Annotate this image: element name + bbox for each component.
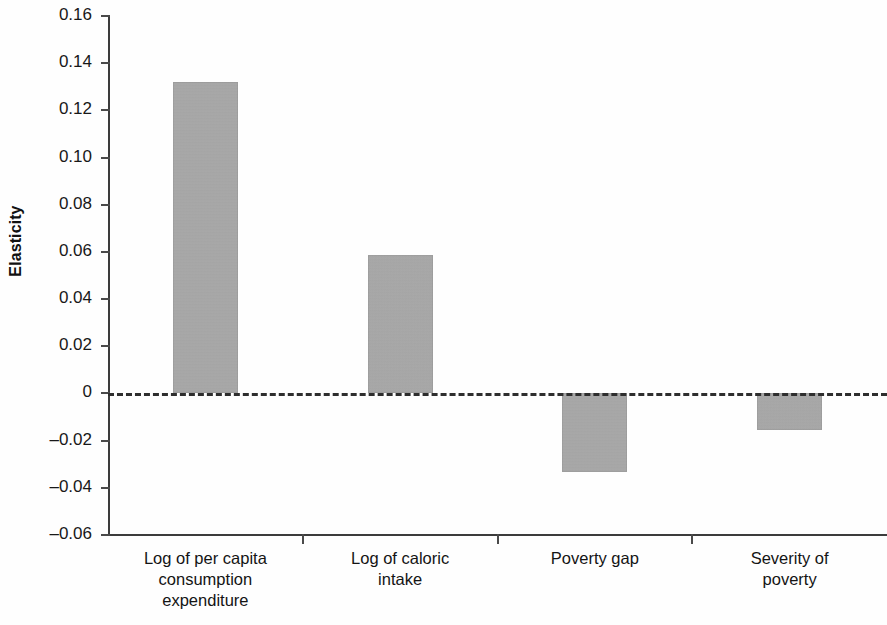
y-axis-tick-label: 0.14 bbox=[0, 52, 92, 72]
y-axis-tick-label: 0.08 bbox=[0, 194, 92, 214]
x-axis-tick bbox=[497, 534, 499, 544]
y-axis-tick-label: 0.04 bbox=[0, 288, 92, 308]
y-axis-tick-label: 0.10 bbox=[0, 147, 92, 167]
bar bbox=[368, 255, 433, 393]
y-axis-tick bbox=[101, 345, 110, 347]
y-axis-tick-label: –0.06 bbox=[0, 524, 92, 544]
category-label-line: intake bbox=[303, 569, 498, 590]
y-axis-tick-label: –0.02 bbox=[0, 430, 92, 450]
x-axis-category-label: Log of caloricintake bbox=[303, 548, 498, 590]
x-axis-tick bbox=[302, 534, 304, 544]
y-axis-tick bbox=[101, 109, 110, 111]
y-axis-tick bbox=[101, 251, 110, 253]
bar-chart-figure: Elasticity 0.160.140.120.100.080.060.040… bbox=[0, 0, 887, 625]
y-axis-line bbox=[108, 16, 110, 535]
category-label-line: Poverty gap bbox=[498, 548, 693, 569]
category-label-line: consumption bbox=[108, 569, 303, 590]
y-axis-tick-label: 0 bbox=[0, 382, 92, 402]
y-axis-tick-label: 0.02 bbox=[0, 335, 92, 355]
plot-area: 0.160.140.120.100.080.060.040.020–0.02–0… bbox=[108, 16, 887, 535]
x-axis-category-label: Poverty gap bbox=[498, 548, 693, 569]
y-axis-tick-label: 0.12 bbox=[0, 99, 92, 119]
y-axis-tick-label: –0.04 bbox=[0, 477, 92, 497]
y-axis-tick bbox=[101, 534, 110, 536]
zero-reference-line bbox=[108, 393, 887, 396]
bar bbox=[173, 82, 238, 393]
bar bbox=[757, 393, 822, 430]
y-axis-tick bbox=[101, 157, 110, 159]
category-label-line: poverty bbox=[692, 569, 887, 590]
bar bbox=[562, 393, 627, 472]
y-axis-tick bbox=[101, 62, 110, 64]
category-label-line: expenditure bbox=[108, 590, 303, 611]
category-label-line: Log of per capita bbox=[108, 548, 303, 569]
y-axis-tick bbox=[101, 15, 110, 17]
y-axis-tick-label: 0.06 bbox=[0, 241, 92, 261]
y-axis-tick bbox=[101, 487, 110, 489]
y-axis-tick bbox=[101, 204, 110, 206]
category-label-line: Severity of bbox=[692, 548, 887, 569]
x-axis-category-label: Log of per capitaconsumptionexpenditure bbox=[108, 548, 303, 611]
y-axis-tick-label: 0.16 bbox=[0, 5, 92, 25]
category-label-line: Log of caloric bbox=[303, 548, 498, 569]
y-axis-tick bbox=[101, 440, 110, 442]
x-axis-category-label: Severity ofpoverty bbox=[692, 548, 887, 590]
y-axis-tick bbox=[101, 298, 110, 300]
x-axis-tick bbox=[691, 534, 693, 544]
